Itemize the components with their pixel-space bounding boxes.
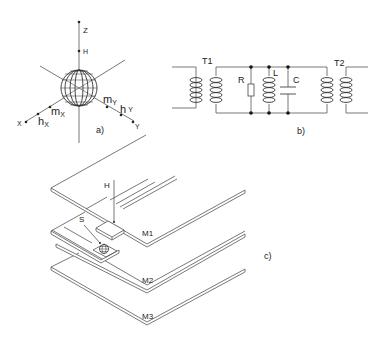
z-axis-label: Z <box>83 26 88 35</box>
r-label: R <box>238 75 245 85</box>
y-axis-tip <box>132 121 135 124</box>
l-label: L <box>273 68 278 78</box>
sensor-sphere-icon <box>100 245 109 254</box>
hy-label: hY <box>120 103 133 115</box>
junction-dots <box>249 65 290 115</box>
t2-label: T2 <box>334 58 345 68</box>
h-arrow-head <box>113 221 115 223</box>
t1-label: T1 <box>202 56 213 66</box>
s-label: S <box>79 215 84 224</box>
m3-label: M3 <box>142 312 154 321</box>
t1-secondary-coil <box>210 78 222 103</box>
top-bus <box>216 67 327 76</box>
panel-a: Z H X hX mX mY <box>17 21 140 143</box>
x-axis-label: X <box>17 120 22 127</box>
hx-label: hX <box>38 115 49 128</box>
bottom-bus <box>216 104 327 113</box>
panel-b: T1 R L C <box>172 56 368 136</box>
s-pointer-dot <box>99 242 101 244</box>
t2-secondary-coil <box>340 78 352 103</box>
panel-c-caption: c) <box>264 251 272 261</box>
m2-label: M2 <box>142 276 154 285</box>
my-point <box>106 106 109 109</box>
my-label: mY <box>103 93 117 106</box>
t2-primary-coil <box>321 78 333 103</box>
h-label: H <box>83 48 88 55</box>
h-point <box>78 50 81 53</box>
t2-output-lead <box>346 67 368 113</box>
z-axis-tip <box>78 21 81 24</box>
c-label: C <box>293 75 300 85</box>
panel-b-caption: b) <box>297 126 305 136</box>
m1-label: M1 <box>142 229 154 238</box>
panel-a-caption: a) <box>96 125 104 135</box>
field-block <box>96 221 124 240</box>
panel-c: M3 M2 S <box>51 135 272 325</box>
sphere-icon <box>61 70 97 106</box>
y-axis-label: Y <box>135 123 140 130</box>
x-axis-tip <box>25 121 28 124</box>
resistor-r <box>248 84 254 96</box>
mx-label: mX <box>51 105 65 118</box>
h-field-label: H <box>104 181 110 190</box>
figure-canvas: Z H X hX mX mY <box>0 0 381 345</box>
inductor-l <box>263 78 275 103</box>
